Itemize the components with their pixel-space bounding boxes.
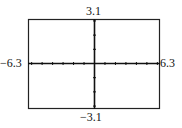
x-max-label: 6.3 [160, 57, 175, 69]
y-min-label: −3.1 [80, 111, 102, 123]
viewing-window [0, 0, 182, 128]
x-min-label: −6.3 [0, 57, 22, 69]
y-max-label: 3.1 [86, 5, 101, 17]
